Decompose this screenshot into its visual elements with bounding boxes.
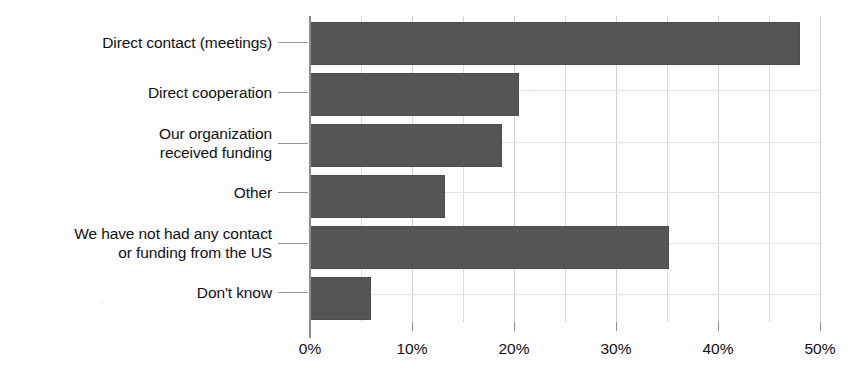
bar-dont-know [310,277,371,320]
category-label-other: Other [234,183,272,202]
gridline-50 [820,16,821,322]
leader-line-5 [278,243,308,244]
leader-line-1 [278,42,308,43]
x-tick-label-20: 20% [498,340,529,358]
y-axis-line [309,16,311,338]
horizontal-rule-5 [310,294,820,295]
leader-line-3 [278,143,308,144]
category-label-column: Direct contact (meetings) Direct coopera… [0,0,272,378]
bar-no-contact-or-funding [310,226,669,269]
bar-other [310,175,445,218]
x-tick-label-0: 0% [299,340,321,358]
x-tick-label-10: 10% [396,340,427,358]
bar-our-organization-received-funding [310,124,502,167]
bar-chart: Direct contact (meetings) Direct coopera… [0,0,860,378]
category-label-dont-know: Don't know [197,283,272,302]
tickmark-40 [718,322,719,331]
x-tick-label-30: 30% [600,340,631,358]
leader-line-4 [278,192,308,193]
tickmark-30 [616,322,617,331]
tickmark-50 [820,322,821,331]
leader-line-2 [278,92,308,93]
tickmark-20 [514,322,515,331]
bar-direct-contact-meetings [310,22,800,65]
plot-area [310,16,820,322]
bar-direct-cooperation [310,73,519,116]
category-label-direct-cooperation: Direct cooperation [148,83,272,102]
tickmark-10 [412,322,413,331]
x-tick-label-50: 50% [804,340,835,358]
category-label-no-contact-or-funding: We have not had any contact or funding f… [74,224,272,262]
tickmark-0 [310,322,311,331]
leader-line-6 [278,292,308,293]
x-tick-label-40: 40% [702,340,733,358]
category-label-direct-contact-meetings: Direct contact (meetings) [102,33,272,52]
category-label-our-organization-received-funding: Our organization received funding [159,124,272,162]
